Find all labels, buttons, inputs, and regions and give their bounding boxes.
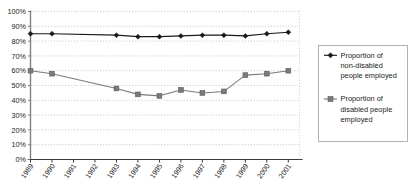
data-point-marker-square	[221, 89, 226, 94]
data-point-marker-square	[28, 68, 33, 73]
y-tick-label: 30%	[12, 111, 27, 120]
employment-proportion-line-chart: 0%10%20%30%40%50%60%70%80%90%100% 198919…	[0, 0, 412, 187]
chart-legend: Proportion ofnon-disabledpeople employed…	[319, 46, 408, 142]
legend-label-line: Proportion of	[341, 51, 384, 60]
legend-label-line: non-disabled	[341, 61, 383, 70]
y-tick-label: 100%	[8, 7, 27, 16]
data-point-marker-square	[243, 73, 248, 78]
y-tick-label: 10%	[12, 140, 27, 149]
legend-label-line: Proportion of	[341, 94, 384, 103]
data-point-marker-square	[200, 91, 205, 96]
data-point-marker-square	[136, 92, 141, 97]
data-point-marker-square	[264, 71, 269, 76]
y-tick-label: 70%	[12, 52, 27, 61]
y-tick-label: 40%	[12, 96, 27, 105]
y-tick-label: 90%	[12, 22, 27, 31]
y-tick-label: 0%	[16, 155, 27, 164]
legend-label-line: people employed	[341, 71, 397, 80]
y-tick-label: 50%	[12, 81, 27, 90]
legend-label-line: employed	[341, 115, 373, 124]
data-point-marker-square	[178, 88, 183, 93]
data-point-marker-square	[328, 97, 333, 102]
chart-container: 0%10%20%30%40%50%60%70%80%90%100% 198919…	[0, 0, 412, 187]
y-tick-label: 80%	[12, 37, 27, 46]
data-point-marker-square	[286, 68, 291, 73]
y-tick-label: 60%	[12, 66, 27, 75]
legend-label-line: disabled people	[341, 105, 393, 114]
data-point-marker-square	[114, 86, 119, 91]
data-point-marker-square	[157, 93, 162, 98]
y-tick-label: 20%	[12, 126, 27, 135]
data-point-marker-square	[50, 71, 55, 76]
